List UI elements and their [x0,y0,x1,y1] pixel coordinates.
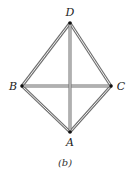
graph-diagram: DBCA (b) [0,0,130,179]
edge-B-A [22,86,70,132]
vertex-label-D: D [65,6,75,19]
vertex-D [68,21,72,25]
vertex-B [20,84,24,88]
edge-D-B [22,23,70,86]
vertex-label-B: B [8,80,17,93]
vertex-label-C: C [117,80,126,93]
edge-C-A [70,86,111,132]
vertex-A [68,130,72,134]
figure-caption: (b) [58,157,72,168]
edge-D-C [70,23,111,86]
edges [22,23,111,132]
vertex-label-A: A [65,136,74,149]
nodes [20,21,113,134]
vertex-C [109,84,113,88]
